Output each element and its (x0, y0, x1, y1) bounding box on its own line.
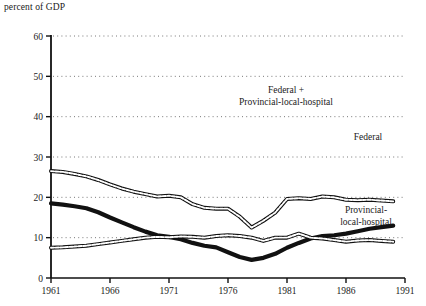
x-tick-label: 1976 (219, 286, 238, 296)
x-tick-group: 1961196619711976198119861991 (42, 278, 415, 296)
x-tick-label: 1981 (278, 286, 297, 296)
series-label-provincial: Provincial- (345, 205, 387, 215)
series-label-total: Federal + (268, 85, 304, 95)
y-tick-group: 0102030405060 (34, 32, 52, 284)
y-tick-label: 10 (34, 233, 44, 243)
y-tick-label: 20 (34, 193, 44, 203)
y-tick-label: 30 (34, 153, 44, 163)
x-tick-label: 1986 (337, 286, 356, 296)
x-tick-label: 1991 (396, 286, 415, 296)
series-group (51, 171, 393, 260)
y-tick-label: 40 (34, 112, 44, 122)
y-tick-label: 50 (34, 72, 44, 82)
series-line-federal (51, 203, 393, 259)
chart-plot-area: 0102030405060 19611966197119761981198619… (0, 0, 426, 306)
y-tick-label: 0 (38, 274, 43, 284)
annotation-group: Federal +Provincial-local-hospitalFedera… (239, 85, 392, 227)
x-tick-label: 1961 (42, 286, 61, 296)
x-tick-label: 1971 (160, 286, 179, 296)
y-tick-label: 60 (34, 32, 44, 42)
chart-container: percent of GDP 0102030405060 19611966197… (0, 0, 426, 306)
series-label-total: Provincial-local-hospital (239, 97, 333, 107)
x-tick-label: 1966 (101, 286, 120, 296)
series-label-provincial: local-hospital (340, 217, 392, 227)
series-label-federal: Federal (354, 132, 383, 142)
